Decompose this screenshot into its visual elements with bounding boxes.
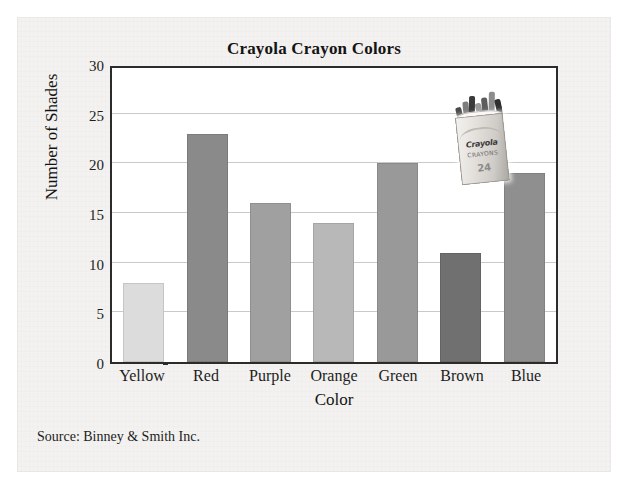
y-tick-label-15: 15	[76, 207, 104, 224]
y-tick-label-0: 0	[76, 356, 104, 373]
bar-slot-red	[175, 68, 238, 362]
y-tick-label-30: 30	[76, 58, 104, 75]
x-tick-label-blue: Blue	[494, 367, 558, 385]
bar-red	[187, 134, 228, 362]
y-axis-title: Number of Shades	[42, 42, 62, 232]
x-tick-label-yellow: Yellow	[110, 367, 174, 385]
crayola-crayon-box-image: Crayola CRAYONS 24	[446, 86, 518, 188]
y-axis-tick-labels: 051015202530	[72, 66, 104, 364]
bar-brown	[440, 253, 481, 362]
x-tick-label-brown: Brown	[430, 367, 494, 385]
x-axis-tick-labels: YellowRedPurpleOrangeGreenBrownBlue	[110, 367, 558, 385]
chart-title: Crayola Crayon Colors	[17, 39, 611, 59]
source-note: Source: Binney & Smith Inc.	[37, 429, 200, 445]
bar-slot-purple	[239, 68, 302, 362]
bar-orange	[313, 223, 354, 362]
bar-purple	[250, 203, 291, 362]
x-axis-title: Color	[110, 390, 558, 410]
x-tick-label-green: Green	[366, 367, 430, 385]
bar-yellow	[123, 283, 164, 362]
y-tick-label-5: 5	[76, 306, 104, 323]
bar-slot-yellow	[112, 68, 175, 362]
y-tick-mark-0	[163, 364, 168, 365]
x-tick-label-purple: Purple	[238, 367, 302, 385]
y-tick-label-20: 20	[76, 157, 104, 174]
y-tick-label-25: 25	[76, 107, 104, 124]
screenshot-root: Crayola Crayon Colors Number of Shades 0…	[0, 0, 628, 489]
x-tick-label-red: Red	[174, 367, 238, 385]
bar-slot-orange	[302, 68, 365, 362]
bar-green	[377, 163, 418, 362]
bar-blue	[504, 173, 545, 362]
x-tick-label-orange: Orange	[302, 367, 366, 385]
y-tick-label-10: 10	[76, 256, 104, 273]
scanned-page-panel: Crayola Crayon Colors Number of Shades 0…	[17, 17, 611, 472]
bar-slot-green	[366, 68, 429, 362]
